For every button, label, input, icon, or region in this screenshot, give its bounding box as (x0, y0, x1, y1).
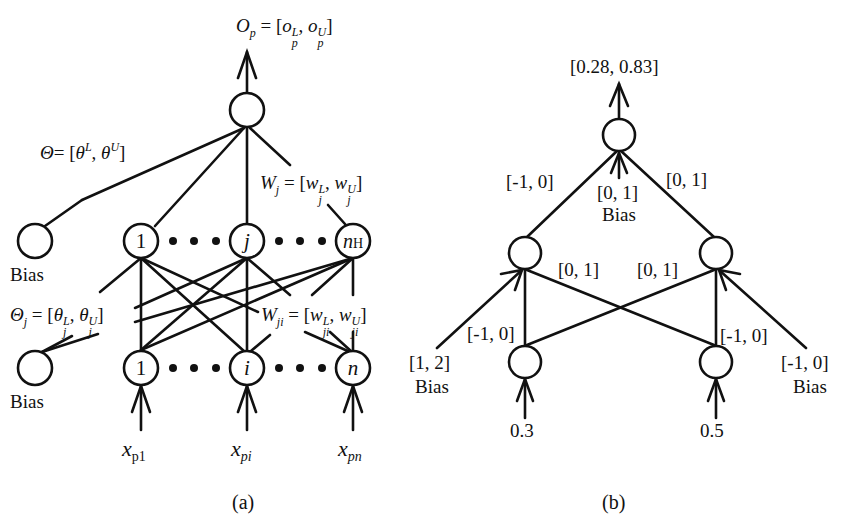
b-bias-out-label: Bias (602, 205, 636, 224)
thetaj-var: Θ (10, 304, 24, 325)
b-input-left: 0.3 (510, 421, 534, 440)
o-lo-sub: p (292, 38, 299, 49)
input-xpi: xpi (231, 438, 252, 464)
wji-eq: = [ (288, 304, 310, 325)
theta-hi-sup: U (110, 140, 119, 154)
caption-b: (b) (602, 492, 625, 512)
hidden-node-j-label: j (230, 224, 264, 258)
wji-sub: ji (277, 315, 284, 329)
thetaj-eq: = [ (32, 304, 54, 325)
b-input-node-left (509, 346, 541, 378)
o-lo: o (282, 15, 292, 36)
wj-lo: w (306, 172, 319, 193)
input-node-i-label: i (230, 351, 264, 385)
o-close: ] (326, 15, 332, 36)
xpi-sub: pi (241, 449, 252, 464)
o-eq: = [ (260, 15, 282, 36)
thetaj-sub: j (24, 315, 27, 329)
bias-node-bottom (18, 351, 52, 385)
b-output-value: [0.28, 0.83] (570, 57, 659, 76)
bias-node-top (18, 224, 52, 258)
xp1-var: x (122, 436, 132, 461)
theta-sep: , (92, 142, 102, 163)
o-hi: o (308, 15, 318, 36)
wj-hi: w (335, 172, 348, 193)
wj-label: Wj = [wLj, wUj] (260, 173, 362, 206)
thetaj-close: ] (97, 304, 103, 325)
b-bias-out-value: [0, 1] (597, 183, 638, 202)
wji-close: ] (360, 304, 366, 325)
theta-lo: θ (76, 142, 85, 163)
theta-label: Θ= [θL, θU] (40, 143, 125, 162)
b-weight-cross-right: [0, 1] (637, 260, 678, 279)
caption-a: (a) (232, 492, 254, 512)
output-node (230, 93, 264, 127)
wj-var: W (260, 172, 276, 193)
b-bias-right-value: [-1, 0] (781, 353, 828, 372)
wj-sep: , (325, 172, 335, 193)
wji-sep: , (329, 304, 339, 325)
wji-hi-sub: ji (352, 327, 361, 338)
input-node-n-label: n (336, 351, 370, 385)
wj-eq: = [ (284, 172, 306, 193)
wji-lo-sub: ji (323, 327, 330, 338)
o-var: O (236, 15, 250, 36)
b-weight-left-out: [-1, 0] (506, 172, 553, 191)
wj-close: ] (356, 172, 362, 193)
o-hi-sub: p (317, 38, 326, 49)
thetaj-lo: θ (54, 304, 63, 325)
xp1-sub: p1 (132, 449, 146, 464)
theta-lo-sup: L (85, 140, 92, 154)
thetaj-hi: θ (79, 304, 88, 325)
b-weight-vert-right: [-1, 0] (720, 326, 767, 345)
thetaj-sep: , (70, 304, 80, 325)
theta-close: ] (119, 142, 125, 163)
o-sep: , (298, 15, 308, 36)
b-output-node (603, 119, 635, 151)
nh-n: n (343, 230, 353, 252)
wji-label: Wji = [wLji, wUji] (261, 305, 367, 338)
thetaj-hi-sub: j (89, 327, 98, 338)
b-weight-cross-left: [0, 1] (558, 260, 599, 279)
bias-bottom-label: Bias (10, 392, 44, 411)
b-bias-left-value: [1, 2] (409, 353, 450, 372)
input-xpn: xpn (338, 438, 362, 464)
xpn-sub: pn (348, 449, 362, 464)
hidden-node-nh-label: nH (336, 224, 370, 261)
b-hidden-node-left (509, 237, 541, 269)
thetaj-lo-sub: j (63, 327, 70, 338)
output-interval-label: Op = [oLp, oUp] (236, 16, 332, 49)
theta-hi: θ (101, 142, 110, 163)
wji-lo: w (310, 304, 323, 325)
nh-sub: H (353, 236, 363, 251)
b-weight-right-out: [0, 1] (666, 170, 707, 189)
wj-hi-sub: j (347, 195, 356, 206)
figure-a-edges (42, 52, 362, 430)
thetaj-label: Θj = [θLj, θUj] (10, 305, 104, 338)
hidden-node-1-label: 1 (124, 224, 158, 258)
theta-var: Θ (40, 142, 54, 163)
o-sub: p (250, 26, 256, 40)
wji-hi: w (339, 304, 352, 325)
theta-eq: = [ (54, 142, 76, 163)
b-bias-right-label: Bias (793, 377, 827, 396)
xpi-var: x (231, 436, 241, 461)
b-bias-left-label: Bias (415, 377, 449, 396)
xpn-var: x (338, 436, 348, 461)
b-weight-vert-left: [-1, 0] (467, 324, 514, 343)
wji-var: W (261, 304, 277, 325)
bias-top-label: Bias (10, 265, 44, 284)
wj-sub: j (276, 183, 279, 197)
b-hidden-node-right (700, 237, 732, 269)
input-xp1: xp1 (122, 438, 146, 464)
wj-lo-sub: j (318, 195, 325, 206)
input-node-1-label: 1 (124, 351, 158, 385)
b-input-node-right (700, 346, 732, 378)
b-input-right: 0.5 (700, 421, 724, 440)
